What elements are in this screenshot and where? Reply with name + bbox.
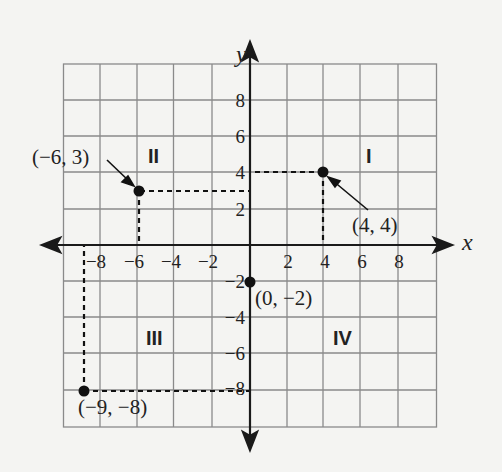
x-tick-label: −4 bbox=[161, 251, 182, 272]
x-axis-label: x bbox=[461, 229, 473, 255]
y-tick-label: 8 bbox=[236, 90, 246, 111]
leader-arrowhead-p2-icon bbox=[122, 176, 134, 186]
quadrant-label-3: III bbox=[146, 327, 163, 349]
point-label-p3: (0, −2) bbox=[255, 286, 312, 310]
point-labels: (4, 4) (−6, 3) (0, −2) (−9, −8) bbox=[32, 145, 398, 419]
x-tick-label: 4 bbox=[320, 251, 330, 272]
x-tick-label: 2 bbox=[283, 251, 293, 272]
y-tick-label: −6 bbox=[225, 343, 245, 364]
quadrant-labels: I II III IV bbox=[146, 145, 372, 349]
y-tick-label: −4 bbox=[225, 307, 246, 328]
y-tick-label: 6 bbox=[236, 126, 246, 147]
y-axis-label: y bbox=[234, 41, 247, 67]
x-tick-label: 6 bbox=[357, 251, 367, 272]
x-tick-label: −2 bbox=[198, 251, 218, 272]
axes bbox=[42, 42, 452, 450]
x-tick-label: 8 bbox=[394, 251, 404, 272]
point-label-p1: (4, 4) bbox=[352, 213, 398, 237]
x-tick-labels: −8 −6 −4 −2 2 4 6 8 bbox=[86, 251, 404, 272]
y-tick-label: −2 bbox=[225, 271, 245, 292]
x-tick-label: −8 bbox=[86, 251, 106, 272]
quadrant-label-2: II bbox=[148, 145, 159, 167]
point-label-p2: (−6, 3) bbox=[32, 145, 89, 169]
quadrant-label-1: I bbox=[366, 145, 372, 167]
quadrant-label-4: IV bbox=[333, 327, 353, 349]
y-tick-label: 2 bbox=[236, 199, 246, 220]
y-tick-label: −8 bbox=[225, 378, 245, 399]
y-tick-label: 4 bbox=[236, 162, 246, 183]
x-tick-label: −6 bbox=[124, 251, 144, 272]
coordinate-plane-diagram: y x −8 −6 −4 −2 2 4 6 8 8 6 4 2 −2 −4 −6… bbox=[0, 0, 502, 472]
point-0-neg2 bbox=[245, 277, 256, 288]
point-label-p4: (−9, −8) bbox=[78, 395, 147, 419]
